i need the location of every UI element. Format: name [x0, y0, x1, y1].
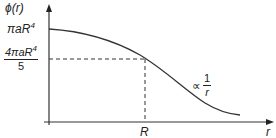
y-tick-top-label: πaR4	[7, 23, 35, 35]
proportional-icon: ∝	[192, 79, 201, 93]
y-axis-label: ϕ(r)	[5, 2, 24, 14]
y-tick-mid-numerator: 4πaR4	[4, 47, 38, 60]
asymptote-numerator: 1	[203, 73, 211, 86]
y-tick-mid-numerator-base: 4πaR	[5, 46, 33, 58]
y-tick-mid-label: 4πaR4 5	[4, 47, 38, 72]
asymptote-label: ∝ 1 r	[192, 73, 211, 98]
x-tick-label-R: R	[140, 126, 149, 138]
diagram-canvas	[0, 0, 276, 138]
y-tick-top-base: πaR	[7, 22, 30, 36]
asymptote-denominator: r	[205, 86, 209, 98]
y-tick-top-exp: 4	[30, 21, 34, 30]
y-tick-mid-denominator: 5	[18, 60, 24, 72]
x-axis-label: r	[266, 126, 270, 138]
y-axis-arrow-icon	[46, 4, 52, 12]
y-tick-mid-numerator-exp: 4	[33, 44, 37, 53]
asymptote-fraction: 1 r	[203, 73, 211, 98]
